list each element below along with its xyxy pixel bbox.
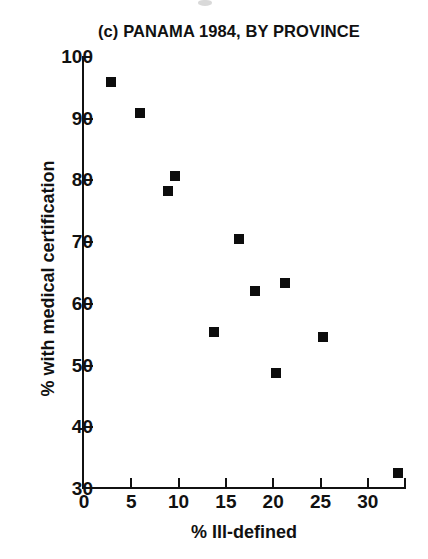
x-tick-label: 10: [156, 492, 202, 511]
data-point-marker: [209, 327, 219, 337]
data-point-marker: [271, 368, 281, 378]
x-tick-label: 0: [61, 492, 107, 511]
data-point-marker: [393, 468, 403, 478]
x-tick-label: 5: [108, 492, 154, 511]
x-tick-label: 15: [203, 492, 249, 511]
data-point-marker: [106, 77, 116, 87]
data-point-marker: [135, 108, 145, 118]
data-point-marker: [163, 186, 173, 196]
data-point-marker: [250, 286, 260, 296]
data-point-marker: [234, 234, 244, 244]
x-tick-label: 25: [298, 492, 344, 511]
y-axis-label: % with medical certification: [38, 79, 59, 479]
x-axis-label: % Ill-defined: [82, 522, 406, 543]
data-point-marker: [170, 171, 180, 181]
data-points-layer: [82, 56, 405, 488]
scan-artifact: [198, 0, 212, 6]
x-tick-label: 30: [345, 492, 391, 511]
chart-title: (c) PANAMA 1984, BY PROVINCE: [0, 22, 428, 41]
scatter-plot-figure: (c) PANAMA 1984, BY PROVINCE 30405060708…: [0, 0, 428, 559]
data-point-marker: [318, 332, 328, 342]
data-point-marker: [280, 278, 290, 288]
x-tick-label: 20: [250, 492, 296, 511]
